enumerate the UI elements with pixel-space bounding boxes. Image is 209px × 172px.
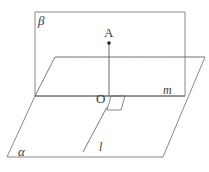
point-A-label: A	[104, 26, 113, 39]
plane-beta-label: β	[38, 14, 44, 27]
plane-alpha-shape	[7, 57, 205, 157]
right-angle-marker	[107, 96, 125, 110]
point-O-label: O	[96, 92, 105, 105]
geometry-figure: β α A O m l	[0, 0, 209, 172]
line-l-label: l	[99, 141, 102, 153]
line-l	[83, 107, 107, 152]
line-m-label: m	[163, 84, 172, 96]
plane-alpha-label: α	[18, 145, 25, 158]
point-A-marker	[107, 41, 111, 45]
plane-alpha-hidden-edge	[35, 57, 205, 96]
